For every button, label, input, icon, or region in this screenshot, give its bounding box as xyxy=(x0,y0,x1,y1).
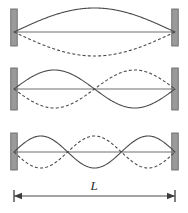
standing-wave-diagram: L xyxy=(0,0,188,213)
dimension-arrowhead-right xyxy=(167,193,175,199)
harmonic-group-1 xyxy=(11,8,179,56)
support-right-1 xyxy=(172,9,179,46)
length-label: L xyxy=(89,178,97,193)
wave-dashed-1 xyxy=(14,32,175,56)
harmonic-group-3 xyxy=(11,133,179,170)
support-left-1 xyxy=(11,9,18,46)
wave-solid-1 xyxy=(14,8,175,32)
standing-wave-figure: L xyxy=(0,0,188,213)
dimension-arrowhead-left xyxy=(14,193,22,199)
harmonic-group-2 xyxy=(11,68,179,110)
length-dimension-group: L xyxy=(14,178,175,202)
